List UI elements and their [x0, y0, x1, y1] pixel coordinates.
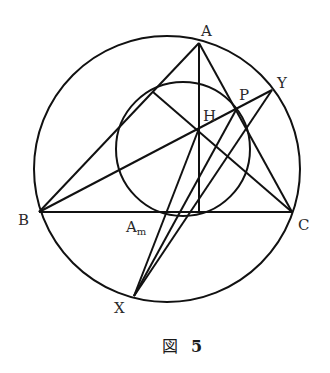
side-ab: [39, 43, 199, 212]
label-h: H: [203, 107, 216, 125]
geometry-figure: A B C H P Y X Am 図 5: [0, 0, 330, 373]
line-x-p: [134, 110, 236, 296]
line-b-y: [39, 90, 272, 212]
side-ca: [199, 43, 292, 212]
caption-prefix: 図: [162, 337, 178, 356]
nine-point-circle: [116, 82, 250, 216]
label-am: Am: [125, 218, 147, 237]
label-b: B: [18, 211, 29, 229]
caption-number: 5: [191, 337, 202, 356]
label-p: P: [239, 86, 249, 104]
label-x: X: [114, 299, 125, 317]
label-y: Y: [276, 74, 288, 92]
label-a: A: [200, 22, 212, 40]
label-c: C: [298, 216, 309, 234]
